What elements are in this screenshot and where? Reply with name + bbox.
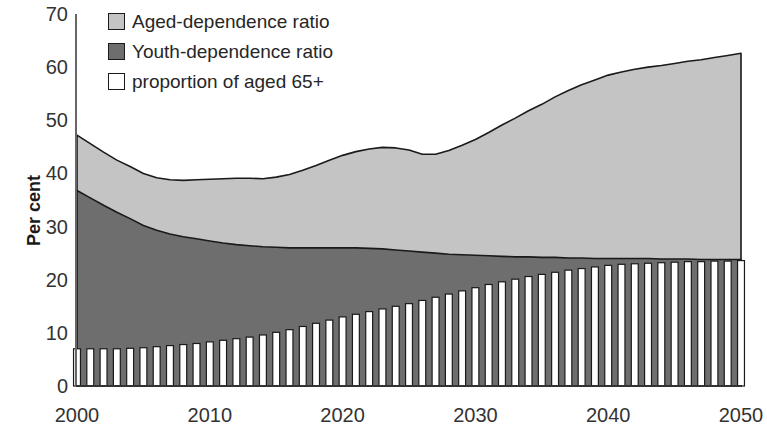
x-tick-label: 2030 (430, 404, 520, 426)
bar (578, 269, 585, 386)
x-tick-label: 2000 (32, 404, 122, 426)
bar (113, 349, 120, 386)
bar (339, 317, 346, 386)
bar (738, 261, 745, 386)
bar (459, 291, 466, 386)
legend-label: Aged-dependence ratio (132, 12, 330, 31)
bar (485, 285, 492, 387)
bar (153, 347, 160, 386)
x-tick-label: 2040 (563, 404, 653, 426)
bar (206, 342, 213, 386)
bar (286, 330, 293, 386)
bar (100, 349, 107, 386)
bar (445, 294, 452, 386)
bar (591, 267, 598, 386)
x-tick-label: 2010 (165, 404, 255, 426)
bar (499, 282, 506, 386)
bar (698, 262, 705, 386)
bar (419, 300, 426, 386)
bar (671, 262, 678, 386)
bar (472, 288, 479, 386)
bar (432, 297, 439, 386)
bar (87, 349, 94, 386)
legend-swatch-icon (108, 43, 125, 60)
bar (220, 340, 227, 386)
bar (631, 264, 638, 386)
legend-item: Youth-dependence ratio (108, 36, 408, 66)
bar (127, 348, 134, 386)
bar (246, 337, 253, 386)
bar (140, 348, 147, 386)
bar (565, 270, 572, 386)
bar (684, 262, 691, 386)
legend-swatch-icon (108, 73, 125, 90)
legend-item: proportion of aged 65+ (108, 66, 408, 96)
x-axis-tick-labels: 200020102020203020402050 (0, 404, 751, 434)
bar (313, 323, 320, 386)
bar (724, 261, 731, 386)
bar (259, 335, 266, 386)
bar (74, 349, 81, 386)
x-tick-label: 2020 (298, 404, 388, 426)
legend-swatch-icon (108, 13, 125, 30)
bar (299, 326, 306, 386)
x-tick-label: 2050 (696, 404, 767, 426)
bar (406, 304, 413, 386)
legend-item: Aged-dependence ratio (108, 6, 408, 36)
bar (392, 306, 399, 386)
bar (552, 272, 559, 386)
bar (618, 264, 625, 386)
bar (525, 277, 532, 386)
bar (167, 346, 174, 386)
bar (352, 314, 359, 386)
bar (379, 309, 386, 386)
bar (645, 263, 652, 386)
bar (512, 279, 519, 386)
bar (233, 339, 240, 386)
bar (658, 263, 665, 386)
legend: Aged-dependence ratioYouth-dependence ra… (108, 6, 408, 96)
bar (193, 343, 200, 386)
bar (180, 345, 187, 386)
bar (605, 265, 612, 386)
bar (273, 332, 280, 386)
bar (366, 312, 373, 386)
legend-label: Youth-dependence ratio (132, 42, 333, 61)
legend-label: proportion of aged 65+ (132, 72, 324, 91)
bar (711, 261, 718, 386)
bar (326, 320, 333, 386)
bar (538, 274, 545, 386)
